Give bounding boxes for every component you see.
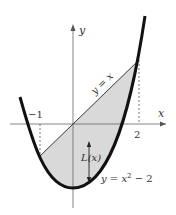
y-axis-label: y: [78, 24, 86, 37]
length-label: L(x): [80, 152, 101, 163]
x-axis-arrow-icon: [160, 122, 166, 127]
tick-label-minus-one: −1: [28, 109, 43, 120]
tick-label-two: 2: [134, 129, 140, 140]
y-axis-arrow-icon: [71, 24, 76, 31]
region-between-curves-diagram: y x −1 2 y = x L(x) y = x2 − 2: [0, 0, 176, 215]
x-axis-label: x: [158, 107, 165, 120]
curve-label: y = x2 − 2: [100, 172, 153, 184]
